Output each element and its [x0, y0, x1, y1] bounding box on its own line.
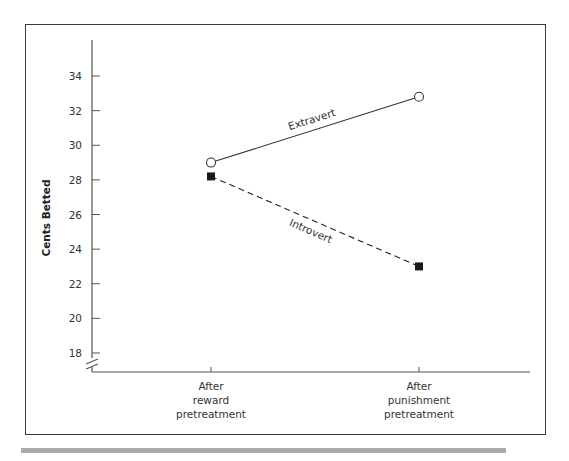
- y-tick-label: 22: [69, 278, 82, 290]
- y-tick-label: 28: [69, 174, 82, 186]
- open-circle-marker: [207, 158, 216, 167]
- open-circle-marker: [415, 92, 424, 101]
- y-tick-label: 26: [69, 209, 83, 221]
- y-tick-label: 34: [69, 70, 83, 82]
- axis-break-mark: [86, 359, 98, 364]
- y-tick-label: 18: [69, 347, 82, 359]
- series-group: ExtravertIntrovert: [207, 92, 424, 270]
- filled-square-marker: [207, 172, 215, 180]
- axes: 182022242628303234Cents BettedAfterrewar…: [40, 40, 530, 420]
- x-category-label: Afterpunishmentpretreatment: [384, 380, 454, 420]
- extravert-line: [211, 97, 419, 163]
- extravert-label: Extravert: [287, 106, 337, 132]
- y-tick-label: 20: [69, 312, 82, 324]
- line-chart: 182022242628303234Cents BettedAfterrewar…: [0, 0, 569, 461]
- introvert-label: Introvert: [288, 216, 335, 245]
- filled-square-marker: [415, 262, 423, 270]
- y-tick-label: 32: [69, 105, 82, 117]
- y-tick-label: 30: [69, 139, 82, 151]
- bottom-divider-bar: [21, 448, 506, 453]
- introvert-line: [211, 176, 419, 266]
- y-axis-title: Cents Betted: [40, 179, 52, 256]
- x-category-label: Afterrewardpretreatment: [176, 380, 246, 420]
- y-tick-label: 24: [69, 243, 83, 255]
